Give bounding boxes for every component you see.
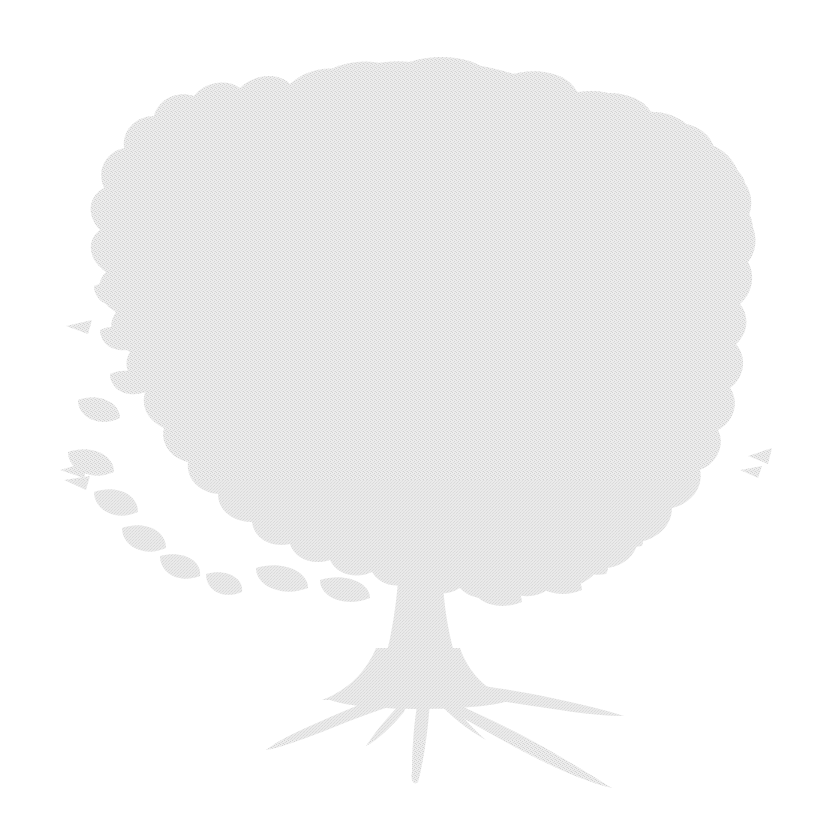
- trunk-shape: [0, 480, 814, 740]
- image-canvas: Pale grey watermark-style silhouette of …: [0, 0, 814, 835]
- tree-silhouette-artwork: [0, 0, 814, 835]
